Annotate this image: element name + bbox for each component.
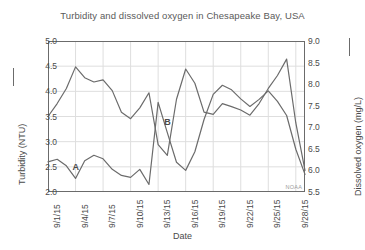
- y-axis-left-label: Turbidity (NTU): [17, 124, 27, 185]
- annotation-A: A: [73, 162, 80, 172]
- x-tick: 9/1/15: [52, 204, 62, 228]
- plot-area: NOAA: [48, 41, 305, 192]
- x-tick: 9/10/15: [135, 200, 145, 228]
- x-axis-label: Date: [0, 231, 365, 241]
- y-tick-right: 6.5: [308, 144, 348, 154]
- y-tick-left: 5.0: [17, 36, 57, 46]
- x-tick: 9/7/15: [107, 204, 117, 228]
- x-tick: 9/28/15: [300, 200, 310, 228]
- x-tick: 9/4/15: [80, 204, 90, 228]
- turbidity-legend-key: [13, 68, 14, 86]
- y-axis-right-label: Dissolved oxygen (mg/L): [353, 97, 363, 196]
- y-tick-right: 6.0: [308, 165, 348, 175]
- y-tick-left: 2.0: [17, 187, 57, 197]
- x-tick: 9/25/15: [272, 200, 282, 228]
- y-tick-right: 8.0: [308, 79, 348, 89]
- x-tick: 9/16/15: [190, 200, 200, 228]
- y-tick-right: 8.5: [308, 58, 348, 68]
- plot-frame: [48, 41, 305, 192]
- chart-root: Turbidity and dissolved oxygen in Chesap…: [0, 0, 365, 250]
- x-tick: 9/19/15: [217, 200, 227, 228]
- oxygen-legend-key: [349, 38, 350, 56]
- x-tick: 9/22/15: [245, 200, 255, 228]
- x-tick: 9/13/15: [162, 200, 172, 228]
- y-tick-right: 7.5: [308, 101, 348, 111]
- chart-title: Turbidity and dissolved oxygen in Chesap…: [0, 10, 365, 21]
- annotation-B: B: [164, 117, 171, 127]
- y-tick-right: 7.0: [308, 122, 348, 132]
- y-tick-right: 5.5: [308, 187, 348, 197]
- y-tick-left: 4.0: [17, 86, 57, 96]
- y-tick-left: 3.5: [17, 112, 57, 122]
- y-tick-right: 9.0: [308, 36, 348, 46]
- noaa-watermark: NOAA: [286, 184, 302, 190]
- y-tick-left: 4.5: [17, 61, 57, 71]
